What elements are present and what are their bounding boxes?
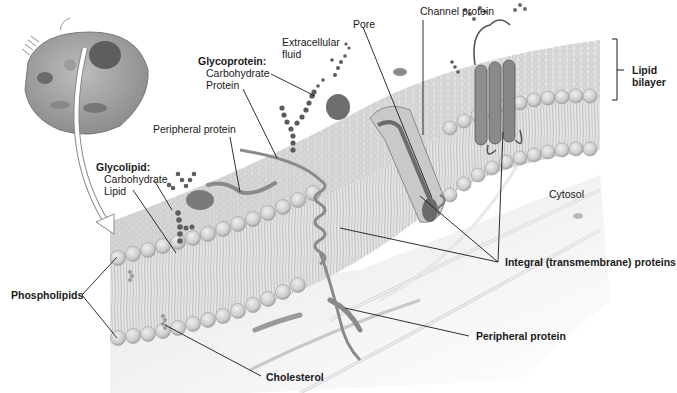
glycolipid-title: Glycolipid: — [96, 161, 150, 173]
label-peripheral-protein-top: Peripheral protein — [153, 123, 236, 135]
glycoprotein-carbohydrate-label: Carbohydrate — [198, 67, 270, 79]
globular-protein — [326, 94, 350, 120]
label-glycolipid: Glycolipid: Carbohydrate Lipid — [96, 161, 168, 197]
membrane-diagram: Extracellular fluid Pore Channel protein… — [0, 0, 677, 393]
label-cytosol: Cytosol — [549, 188, 584, 200]
extracellular-fluid-line2: fluid — [282, 48, 340, 60]
label-integral-proteins: Integral (transmembrane) proteins — [505, 256, 676, 268]
label-lipid-bilayer: Lipid bilayer — [632, 64, 666, 88]
label-peripheral-protein-bottom: Peripheral protein — [476, 330, 566, 342]
glycoprotein-protein-label: Protein — [198, 79, 270, 91]
glycoprotein-title: Glycoprotein: — [198, 55, 266, 67]
lipid-bilayer-bracket — [612, 39, 624, 100]
label-channel-protein: Channel protein — [420, 5, 494, 17]
glycolipid-lipid-label: Lipid — [96, 185, 168, 197]
lipid-bilayer-line1: Lipid — [632, 64, 666, 76]
label-phospholipids: Phospholipids — [11, 289, 83, 301]
label-cholesterol: Cholesterol — [266, 371, 324, 383]
cell-inset — [22, 18, 148, 134]
label-extracellular-fluid: Extracellular fluid — [282, 36, 340, 60]
extracellular-fluid-line1: Extracellular — [282, 36, 340, 48]
surface-protein-small — [393, 68, 407, 76]
label-glycoprotein: Glycoprotein: Carbohydrate Protein — [198, 55, 270, 91]
lipid-bilayer-line2: bilayer — [632, 76, 666, 88]
label-pore: Pore — [353, 18, 375, 30]
glycolipid-carbohydrate-label: Carbohydrate — [96, 173, 168, 185]
